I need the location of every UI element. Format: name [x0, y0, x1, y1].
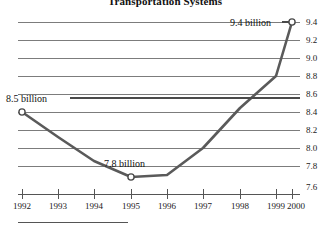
x-tick-label-1992: 1992	[13, 201, 31, 211]
data-series-line	[22, 22, 292, 177]
x-tick-label-1999: 1999	[267, 201, 286, 211]
line-chart-plot: 9.4 9.2 9.0 8.8 8.6 8.4 8.2 8.0 7.8 7.6 …	[0, 0, 330, 234]
annotation-9-4-billion: 9.4 billion	[230, 17, 289, 28]
x-axis	[18, 189, 300, 199]
annotation-label-9-4-billion: 9.4 billion	[230, 17, 271, 28]
y-tick-label-8-4: 8.4	[306, 107, 318, 117]
y-axis-labels: 9.4 9.2 9.0 8.8 8.6 8.4 8.2 8.0 7.8 7.6	[306, 17, 318, 192]
x-tick-label-1994: 1994	[85, 201, 104, 211]
y-tick-label-8-2: 8.2	[306, 125, 317, 135]
y-tick-label-8-6: 8.6	[306, 89, 318, 99]
annotation-label-8-5-billion: 8.5 billion	[6, 93, 47, 104]
chart-figure: Transportation Systems 9.4 9.2 9.0 8.8 8…	[0, 0, 330, 234]
footnote-separator	[18, 222, 128, 223]
x-tick-label-1995: 1995	[122, 201, 141, 211]
y-tick-label-8-0: 8.0	[306, 143, 318, 153]
y-tick-label-9-2: 9.2	[306, 35, 317, 45]
y-tick-label-9-0: 9.0	[306, 53, 318, 63]
data-markers	[19, 19, 295, 180]
data-point-1995	[128, 174, 134, 180]
data-point-1992	[19, 109, 25, 115]
data-point-2000	[289, 19, 295, 25]
annotation-label-7-8-billion: 7.8 billion	[104, 158, 145, 169]
x-tick-label-1997: 1997	[194, 201, 213, 211]
x-tick-label-2000: 2000	[287, 201, 306, 211]
x-tick-label-1998: 1998	[231, 201, 250, 211]
y-tick-label-9-4: 9.4	[306, 17, 318, 27]
x-tick-label-1993: 1993	[49, 201, 68, 211]
y-tick-label-7-6: 7.6	[306, 182, 318, 192]
y-tick-label-8-8: 8.8	[306, 71, 318, 81]
x-tick-label-1996: 1996	[158, 201, 177, 211]
annotation-7-8-billion: 7.8 billion	[104, 158, 145, 169]
x-axis-labels: 1992 1993 1994 1995 1996 1997 1998 1999 …	[13, 201, 306, 211]
y-tick-label-7-8: 7.8	[306, 161, 318, 171]
